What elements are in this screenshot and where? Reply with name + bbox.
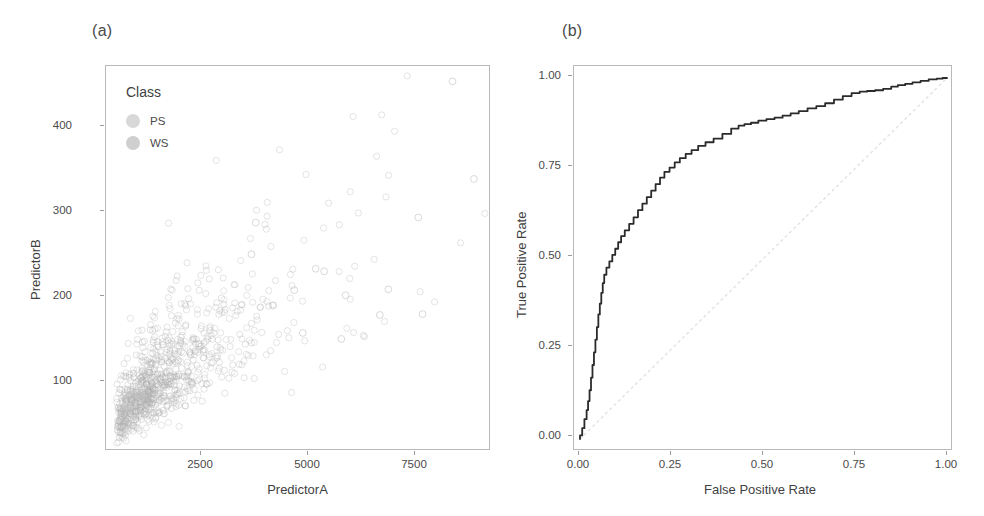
- legend-label-ws: WS: [150, 137, 169, 149]
- legend-title: Class: [126, 84, 169, 100]
- panel-b-x-tick-000: 0.00: [553, 458, 603, 470]
- panel-b-y-tick-000: 0.00: [523, 429, 561, 441]
- panel-b-y-tick-100: 1.00: [523, 69, 561, 81]
- panel-b-y-tick-025: 0.25: [523, 339, 561, 351]
- panel-b-x-tickmark-000: [578, 451, 579, 455]
- panel-a-x-tick-5000: 5000: [282, 458, 332, 470]
- panel-b-y-tickmark-025: [568, 345, 572, 346]
- panel-b-x-tickmark-050: [762, 451, 763, 455]
- panel-b-y-tickmark-000: [568, 435, 572, 436]
- panel-a-y-tick-200: 200: [40, 289, 72, 301]
- panel-a-x-tick-2500: 2500: [175, 458, 225, 470]
- panel-b-x-tick-100: 1.00: [921, 458, 971, 470]
- legend-label-ps: PS: [150, 115, 165, 127]
- panel-a-x-tickmark-2500: [200, 451, 201, 455]
- legend-item-ps[interactable]: PS: [126, 110, 169, 132]
- panel-a-y-tickmark-200: [100, 295, 104, 296]
- panel-b-y-tick-050: 0.50: [523, 249, 561, 261]
- panel-a-x-tickmark-7500: [414, 451, 415, 455]
- panel-a-plot-area: Class PS WS: [105, 65, 490, 450]
- panel-b-y-tick-075: 0.75: [523, 159, 561, 171]
- panel-b-x-tick-075: 0.75: [829, 458, 879, 470]
- panel-a-y-tickmark-300: [100, 210, 104, 211]
- panel-a-x-tickmark-5000: [307, 451, 308, 455]
- panel-b-x-tickmark-025: [670, 451, 671, 455]
- legend-item-ws[interactable]: WS: [126, 132, 169, 154]
- panel-a-y-tickmark-100: [100, 380, 104, 381]
- panel-a-y-tick-400: 400: [40, 119, 72, 131]
- panel-b-y-tickmark-100: [568, 75, 572, 76]
- panel-a-y-tickmark-400: [100, 125, 104, 126]
- panel-a-x-axis-title: PredictorA: [0, 482, 595, 497]
- panel-a-legend: Class PS WS: [126, 84, 169, 154]
- panel-b-x-axis-title: False Positive Rate: [525, 482, 984, 497]
- roc-curve: [574, 66, 952, 450]
- panel-b-plot-area: [573, 65, 952, 450]
- panel-b-x-tickmark-075: [854, 451, 855, 455]
- panel-b-y-axis-title: True Positive Rate: [514, 212, 529, 318]
- panel-b-x-tickmark-100: [946, 451, 947, 455]
- legend-key-ws-icon: [126, 136, 140, 150]
- figure-root: (a) PredictorB 100 200 300 400 Class PS: [0, 0, 984, 516]
- panel-a-y-tick-100: 100: [40, 374, 72, 386]
- panel-b-y-tickmark-050: [568, 255, 572, 256]
- panel-a-tag: (a): [92, 22, 112, 40]
- legend-key-ps-icon: [126, 114, 140, 128]
- panel-b-y-tickmark-075: [568, 165, 572, 166]
- panel-a-x-tick-7500: 7500: [389, 458, 439, 470]
- panel-b-x-tick-050: 0.50: [737, 458, 787, 470]
- panel-b-x-tick-025: 0.25: [645, 458, 695, 470]
- panel-b-tag: (b): [562, 22, 582, 40]
- panel-a-y-tick-300: 300: [40, 204, 72, 216]
